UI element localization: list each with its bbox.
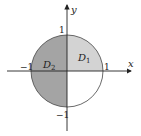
tick-x-pos: 1	[104, 62, 110, 72]
tick-y-neg: −1	[56, 110, 69, 120]
y-axis-label: y	[70, 4, 77, 15]
x-axis-label: x	[128, 58, 134, 69]
tick-y-pos: 1	[59, 25, 65, 35]
tick-x-neg: −1	[20, 62, 33, 72]
region-diagram: x y 1 −1 1 −1 D1 D2	[0, 0, 141, 136]
